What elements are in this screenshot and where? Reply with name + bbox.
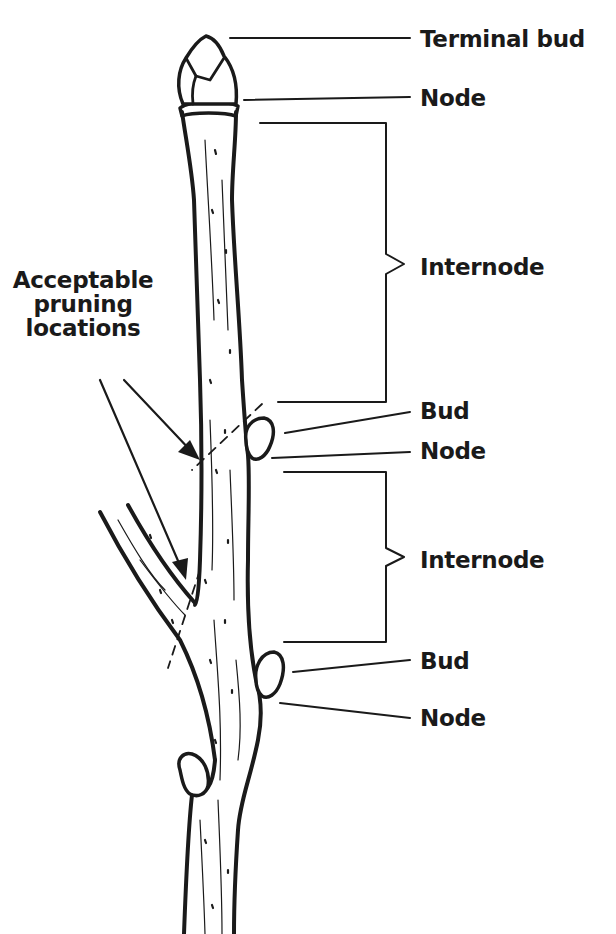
- twig-diagram: [0, 0, 616, 934]
- terminal-bud: [179, 36, 237, 104]
- leader-lines: [230, 38, 410, 718]
- label-terminal-bud: Terminal bud: [420, 28, 585, 51]
- label-bud-upper: Bud: [420, 400, 469, 423]
- callout-line-1: Acceptable: [0, 268, 166, 292]
- arrow-head-upper: [178, 440, 200, 460]
- callout-line-2: pruning: [0, 292, 166, 316]
- internode-bracket-upper: [260, 123, 404, 402]
- side-branch: [100, 505, 215, 760]
- callout-pruning-locations: Acceptable pruning locations: [0, 268, 166, 340]
- internode-bracket-lower: [284, 472, 404, 642]
- upper-bud: [246, 418, 274, 459]
- label-node-top: Node: [420, 87, 486, 110]
- lower-bud: [256, 652, 284, 697]
- label-bud-lower: Bud: [420, 650, 469, 673]
- label-internode-upper: Internode: [420, 256, 544, 279]
- main-stem: [150, 102, 261, 934]
- label-node-upper: Node: [420, 440, 486, 463]
- callout-line-3: locations: [0, 316, 166, 340]
- label-internode-lower: Internode: [420, 549, 544, 572]
- label-node-lower: Node: [420, 707, 486, 730]
- bottom-bud: [179, 754, 208, 796]
